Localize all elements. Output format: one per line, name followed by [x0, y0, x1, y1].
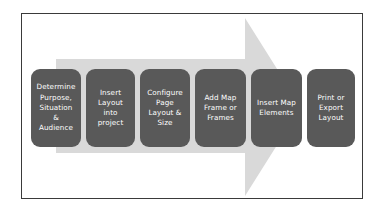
- step-box-print-or-export[interactable]: Print or Export Layout: [307, 69, 355, 147]
- step-box-insert-map-elements[interactable]: Insert Map Elements: [251, 69, 302, 147]
- diagram-page: Determine Purpose, Situation & Audience …: [0, 0, 378, 212]
- process-step-list: Determine Purpose, Situation & Audience …: [22, 14, 364, 200]
- step-box-add-map-frame[interactable]: Add Map Frame or Frames: [195, 69, 246, 147]
- step-label: Configure Page Layout & Size: [147, 88, 183, 129]
- step-label: Add Map Frame or Frames: [204, 93, 237, 124]
- diagram-frame: Determine Purpose, Situation & Audience …: [21, 13, 363, 199]
- step-box-insert-layout[interactable]: Insert Layout into project: [86, 69, 135, 147]
- step-box-configure-page[interactable]: Configure Page Layout & Size: [140, 69, 190, 147]
- step-box-determine-purpose[interactable]: Determine Purpose, Situation & Audience: [31, 69, 81, 147]
- step-label: Insert Layout into project: [98, 88, 124, 129]
- step-label: Print or Export Layout: [318, 93, 345, 124]
- step-label: Insert Map Elements: [257, 98, 296, 118]
- step-label: Determine Purpose, Situation & Audience: [37, 82, 76, 133]
